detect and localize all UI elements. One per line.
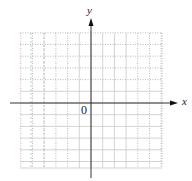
y-axis-label: y	[87, 5, 92, 16]
x-axis-arrowhead-icon	[170, 101, 178, 106]
x-axis-label: x	[182, 96, 187, 107]
axes	[10, 18, 178, 178]
origin-label: 0	[81, 104, 87, 116]
y-axis-arrowhead-icon	[89, 18, 94, 26]
coordinate-plane	[0, 0, 192, 181]
